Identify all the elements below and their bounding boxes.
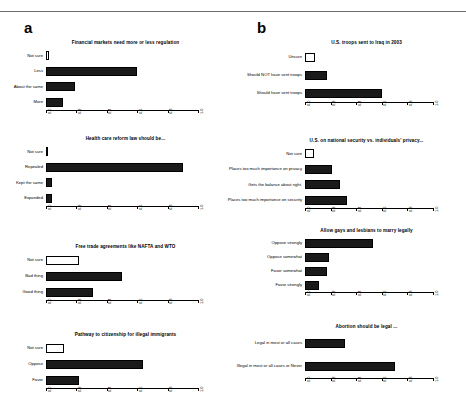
bar [46,147,48,156]
category-label: Should have sent troops [233,91,302,95]
x-axis: 0.00.20.40.60.81.0 [46,300,198,313]
axis-tick-label: 0.6 [383,100,387,106]
bar [305,89,382,98]
bar-row [46,163,233,172]
axis-tick-label: 0.4 [358,290,362,296]
bar [305,267,327,276]
bar-row [305,71,466,80]
plot-area: Not sureBad thingGood thing [0,252,233,300]
panel-b-letter: b [257,20,266,35]
axis-tick-label: 0.0 [48,386,52,392]
bar-row [46,344,233,353]
bar-row [305,339,466,348]
axis-tick-label: 0.4 [108,108,112,114]
bar [46,82,75,91]
category-label: Not sure [0,150,43,154]
bar [305,196,347,205]
chart-title: Pathway to citizenship for illegal immig… [0,332,233,337]
bar [305,239,373,248]
axis-tick-label: 0.0 [48,298,52,304]
category-label: Favor [0,378,43,382]
chart-title: Financial markets need more or less regu… [0,40,233,45]
x-axis: 0.00.20.40.60.81.0 [305,292,433,305]
chart-title: U.S. troops sent to Iraq in 2003 [233,40,466,45]
axis-tick-label: 0.6 [139,386,143,392]
category-label: Bad thing [0,274,43,278]
category-label: Repealed [0,165,43,169]
category-label: Oppose somewhat [233,255,302,259]
axis-tick-label: 0.8 [169,204,173,210]
bar-row [305,196,466,205]
axis-tick-label: 0.8 [169,298,173,304]
chart-title: Free trade agreements like NAFTA and WTO [0,244,233,249]
bar-row [46,194,233,203]
plot-area: Not sureRepealedKept the sameExpanded [0,144,233,206]
chart-title: U.S. on national security vs. individual… [233,138,466,143]
plot-area: Not sureLessAbout the sameMore [0,48,233,110]
bar-row [46,67,233,76]
x-axis: 0.00.20.40.60.81.0 [46,110,198,123]
axis-line [305,102,433,103]
axis-tick-label: 0.0 [307,290,311,296]
bar-group [305,146,466,208]
category-label: Oppose strongly [233,241,302,245]
plot-area: Oppose stronglyOppose somewhatFavor some… [233,236,466,292]
axis-tick-label: 1.0 [435,376,439,382]
category-label: Favor somewhat [233,269,302,273]
bar [46,51,49,60]
axis-tick-label: 1.0 [435,206,439,212]
axis-line [46,110,198,111]
bar-group [305,332,466,378]
axis-tick-label: 1.0 [200,298,204,304]
x-axis: 0.00.20.40.60.81.0 [46,388,198,401]
bar-row [305,53,466,62]
bar [46,272,122,281]
figure-body: a Financial markets need more or less re… [0,14,466,412]
bar [46,98,63,107]
bar-row [305,267,466,276]
x-axis: 0.00.20.40.60.81.0 [305,102,433,115]
category-axis-labels: Oppose stronglyOppose somewhatFavor some… [233,236,305,292]
bar-row [46,360,233,369]
bar [46,344,64,353]
axis-tick-label: 0.2 [332,376,336,382]
bar [305,339,345,348]
bar [46,288,93,297]
axis-tick-label: 1.0 [435,290,439,296]
bar [46,256,79,265]
axis-tick-label: 1.0 [200,386,204,392]
axis-tick-label: 0.4 [108,204,112,210]
axis-tick-label: 0.0 [48,108,52,114]
axis-tick-label: 0.0 [307,376,311,382]
bar-row [305,239,466,248]
axis-tick-label: 0.8 [409,290,413,296]
axis-tick-label: 0.0 [48,204,52,210]
axis-tick-label: 0.2 [332,290,336,296]
bar-row [305,149,466,158]
axis-tick-label: 0.4 [358,100,362,106]
bar [305,281,319,290]
axis-tick-label: 0.6 [383,376,387,382]
chart-panel: Allow gays and lesbians to marry legally… [233,228,466,305]
category-label: Illegal in most or all cases or Never [233,364,302,368]
axis-tick-label: 0.2 [78,108,82,114]
bar-row [305,253,466,262]
bar-group [46,252,233,300]
axis-line [46,388,198,389]
panel-a-letter: a [24,20,32,35]
bar [46,163,183,172]
plot-area: Not sureOpposeFavor [0,340,233,388]
axis-line [46,300,198,301]
bar-row [46,256,233,265]
category-label: Favor strongly [233,283,302,287]
axis-tick-label: 0.6 [139,204,143,210]
bar-group [305,236,466,292]
axis-tick-label: 1.0 [200,108,204,114]
bar [305,165,332,174]
category-label: Legal in most or all cases [233,341,302,345]
category-label: Not sure [0,54,43,58]
bar [305,149,314,158]
bar-group [305,48,466,102]
axis-tick-label: 0.2 [332,206,336,212]
category-axis-labels: Not sureBad thingGood thing [0,252,46,300]
